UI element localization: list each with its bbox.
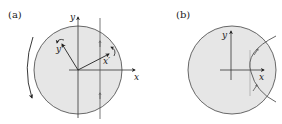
y-axis-label-a: y	[69, 12, 76, 22]
figure-canvas: (a) y x y′ x′ (b) y x	[0, 0, 282, 124]
panel-a-label: (a)	[8, 9, 22, 20]
x-prime-label: x′	[103, 56, 110, 66]
panel-b-label: (b)	[176, 9, 190, 20]
x-axis-label-b: x	[259, 72, 264, 82]
panel-b: (b) y x	[176, 9, 276, 114]
y-axis-label-b: y	[221, 30, 228, 40]
y-prime-label: y′	[55, 44, 63, 54]
panel-a: (a) y x y′ x′	[8, 9, 139, 119]
rotation-arrow-icon	[27, 37, 33, 98]
x-axis-label-a: x	[134, 72, 139, 82]
